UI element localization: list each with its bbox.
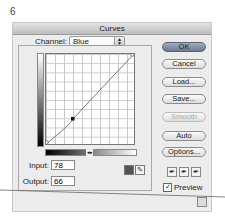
callout-line <box>0 0 225 218</box>
